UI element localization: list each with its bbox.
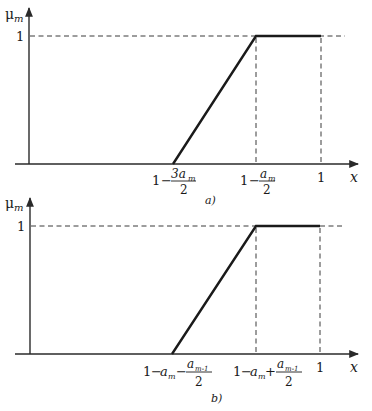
x-tick-one-a: 1 <box>317 170 325 185</box>
x-tick-peak-a: 1 − a m 2 <box>240 167 276 197</box>
x-axis-label-b: x <box>350 359 358 375</box>
panel-caption-a: a) <box>205 194 216 207</box>
svg-text:a: a <box>187 357 194 371</box>
svg-text:m: m <box>268 174 276 183</box>
svg-text:3a: 3a <box>171 167 186 181</box>
x-tick-start-b: 1 − a m − a m-1 2 <box>143 357 212 389</box>
svg-text:m: m <box>188 174 196 183</box>
svg-text:2: 2 <box>180 183 188 197</box>
y-tick-one-b: 1 <box>17 219 25 234</box>
svg-text:a: a <box>160 364 168 379</box>
svg-text:−: − <box>176 364 187 379</box>
panel-a: μm 1 1 − 3a m 2 1 − a m 2 1 x a) <box>5 6 358 207</box>
svg-text:m: m <box>168 372 176 381</box>
x-tick-one-b: 1 <box>316 360 324 375</box>
panel-b: μm 1 1 − a m − a m-1 2 1 − a m + a m-1 2… <box>5 195 358 405</box>
x-tick-peak-b: 1 − a m + a m-1 2 <box>233 357 302 389</box>
svg-text:−: − <box>249 173 260 188</box>
y-axis-label-b: μm <box>5 195 24 213</box>
svg-text:2: 2 <box>285 375 293 389</box>
svg-text:2: 2 <box>195 375 203 389</box>
svg-text:a: a <box>277 357 284 371</box>
svg-text:a: a <box>260 167 267 181</box>
svg-text:1: 1 <box>240 173 248 188</box>
y-tick-one-a: 1 <box>16 29 24 44</box>
svg-text:a: a <box>250 364 258 379</box>
svg-text:1: 1 <box>152 173 160 188</box>
svg-text:+: + <box>265 364 276 379</box>
panel-caption-b: b) <box>211 392 222 405</box>
svg-text:2: 2 <box>263 183 271 197</box>
x-axis-label-a: x <box>350 169 358 185</box>
membership-curve-b <box>172 226 320 354</box>
membership-function-diagram: μm 1 1 − 3a m 2 1 − a m 2 1 x a) <box>0 0 372 411</box>
membership-curve-a <box>173 36 321 164</box>
y-axis-label-a: μm <box>5 6 24 24</box>
x-tick-start-a: 1 − 3a m 2 <box>152 167 196 197</box>
